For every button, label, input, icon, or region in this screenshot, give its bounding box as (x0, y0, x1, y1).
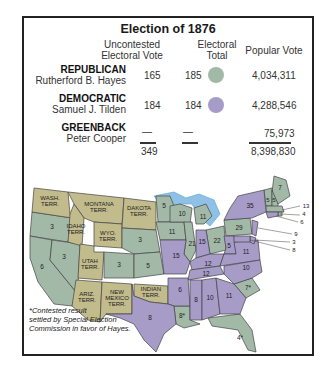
electoral-total: 185 (185, 70, 202, 81)
total-popular: 8,398,830 (251, 146, 296, 157)
svg-text:6: 6 (178, 286, 182, 293)
svg-text:8*: 8* (179, 312, 186, 319)
svg-text:7*: 7* (245, 284, 252, 291)
party-name: REPUBLICAN (24, 64, 126, 75)
popular-vote: 4,034,311 (252, 70, 296, 81)
svg-text:8: 8 (194, 296, 198, 303)
election-1876-figure: Election of 1876 Uncontested Electoral V… (22, 16, 314, 356)
svg-text:3: 3 (117, 261, 121, 268)
state-massachusetts (266, 206, 284, 212)
electoral-total: — (183, 126, 193, 137)
svg-text:3: 3 (50, 223, 54, 230)
footnote-line: settled by Special Election (29, 315, 131, 324)
popular-vote: 4,288,546 (252, 100, 297, 111)
republican-color-swatch (208, 67, 224, 83)
svg-text:11: 11 (243, 248, 250, 255)
svg-text:7: 7 (278, 184, 282, 191)
svg-text:15: 15 (198, 238, 206, 245)
header-uncontested: Uncontested Electoral Vote (82, 39, 182, 61)
svg-text:12: 12 (204, 260, 212, 267)
svg-text:13: 13 (303, 203, 310, 209)
header-line: Electoral Vote (82, 50, 182, 61)
electoral-total: 184 (185, 100, 202, 111)
popular-vote: 75,973 (264, 128, 295, 139)
footnote-line: *Contested result (29, 306, 131, 315)
svg-text:11: 11 (226, 292, 233, 299)
svg-text:21: 21 (188, 240, 196, 247)
svg-text:4*: 4* (237, 334, 244, 341)
svg-text:TERR.: TERR. (41, 201, 59, 207)
footnote-line: Commission in favor of Hayes. (29, 324, 131, 333)
democratic-color-swatch (208, 97, 224, 113)
figure-title: Election of 1876 (24, 22, 312, 36)
svg-text:10: 10 (178, 210, 186, 217)
svg-text:29: 29 (235, 224, 243, 231)
svg-text:4: 4 (302, 211, 306, 217)
svg-text:22: 22 (213, 237, 221, 244)
svg-text:TERR.: TERR. (67, 229, 85, 235)
svg-text:5: 5 (162, 202, 166, 209)
candidate-name: Peter Cooper (24, 133, 126, 144)
svg-text:TERR.: TERR. (130, 211, 148, 217)
uncontested-votes: — (142, 126, 152, 137)
svg-text:10: 10 (206, 294, 214, 301)
state-maryland (234, 236, 250, 242)
svg-text:12: 12 (202, 270, 210, 277)
state-new-jersey (252, 220, 258, 236)
party-name: GREENBACK (24, 122, 126, 133)
svg-text:3: 3 (62, 253, 66, 260)
sum-rule-popular (249, 142, 291, 144)
svg-text:TERR.: TERR. (90, 207, 108, 213)
svg-text:3: 3 (138, 236, 142, 243)
uncontested-votes: 184 (144, 100, 161, 111)
svg-text:TERR.: TERR. (142, 292, 160, 298)
header-line: Electoral (187, 39, 247, 50)
svg-text:9: 9 (294, 231, 298, 237)
svg-text:15: 15 (172, 252, 180, 259)
state-new-york (224, 190, 266, 220)
header-popular-vote: Popular Vote (239, 45, 309, 56)
svg-text:TERR.: TERR. (78, 297, 96, 303)
party-name: DEMOCRATIC (24, 93, 126, 104)
svg-text:TERR.: TERR. (99, 236, 117, 242)
header-line: Uncontested (82, 39, 182, 50)
svg-text:6: 6 (300, 219, 304, 225)
state-connecticut (266, 212, 278, 218)
svg-text:3: 3 (292, 239, 296, 245)
svg-text:10: 10 (242, 264, 250, 271)
candidate-name: Rutherford B. Hayes (24, 75, 126, 86)
svg-text:8: 8 (292, 247, 296, 253)
sum-rule-uncontested (140, 142, 156, 144)
svg-text:35: 35 (246, 202, 254, 209)
total-uncontested: 349 (141, 146, 158, 157)
svg-text:11: 11 (200, 213, 207, 220)
header-line: Total (187, 50, 247, 61)
candidate-name: Samuel J. Tilden (24, 104, 126, 115)
footnote: *Contested result settled by Special Ele… (29, 306, 131, 333)
svg-text:11: 11 (169, 228, 176, 235)
svg-text:TERR.: TERR. (81, 264, 99, 270)
header-electoral-total: Electoral Total (187, 39, 247, 61)
svg-text:5: 5 (227, 242, 231, 249)
sum-rule-electoral (182, 142, 198, 144)
svg-text:6: 6 (40, 263, 44, 270)
state-florida (208, 314, 256, 352)
svg-text:8: 8 (148, 314, 152, 321)
uncontested-votes: 165 (144, 70, 161, 81)
svg-text:5: 5 (146, 262, 150, 269)
